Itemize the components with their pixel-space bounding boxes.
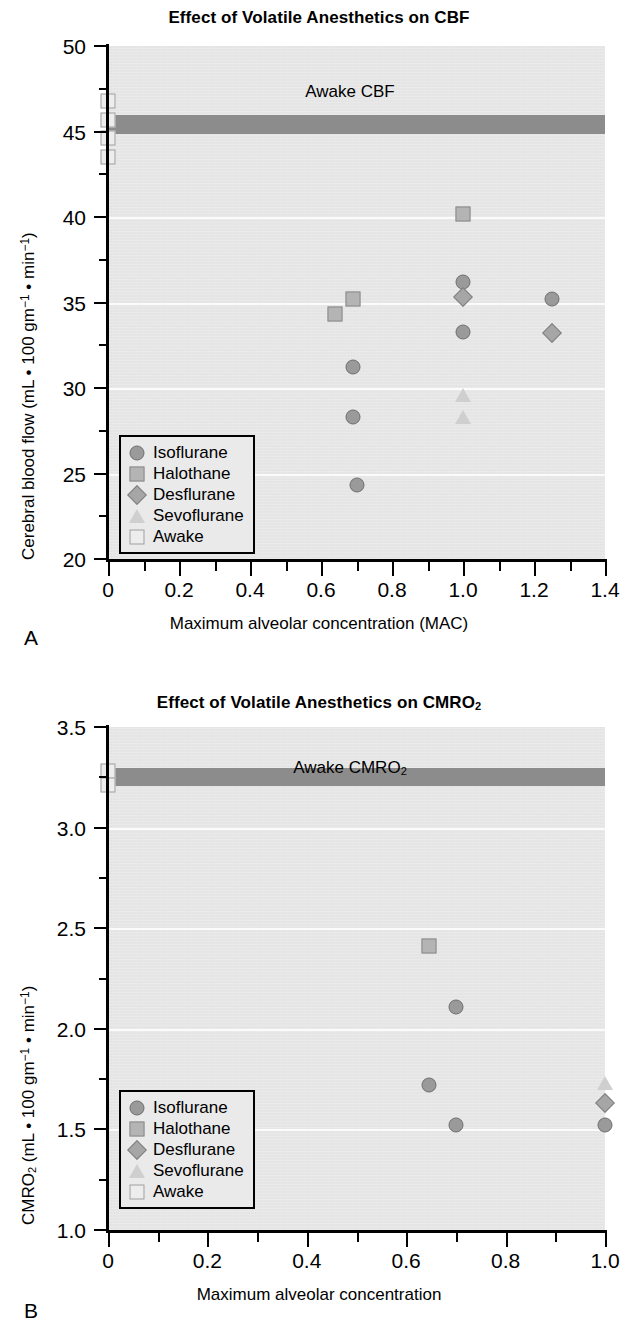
y-tick — [94, 827, 108, 829]
data-point-sevoflurane — [455, 410, 471, 424]
x-tick — [506, 1233, 508, 1247]
data-point-isoflurane — [598, 1118, 613, 1133]
x-tick-label: 0.8 — [471, 1250, 541, 1271]
x-tick — [250, 562, 252, 576]
legend-symbol-circle-icon — [128, 1099, 146, 1117]
y-tick — [94, 1229, 108, 1231]
legend-label: Halothane — [153, 465, 231, 482]
x-tick-label: 1.2 — [499, 579, 569, 600]
legend-item-desflurane: Desflurane — [128, 1139, 244, 1160]
marker-circle — [130, 445, 145, 460]
y-tick-label: 35 — [30, 292, 86, 313]
x-tick — [321, 562, 323, 576]
x-tick — [605, 562, 607, 576]
panel-b-title: Effect of Volatile Anesthetics on CMRO2 — [0, 693, 638, 713]
data-point-halothane — [328, 307, 343, 322]
y-tick-minor — [99, 259, 108, 261]
x-tick-label: 1.0 — [570, 1250, 638, 1271]
y-tick — [94, 1028, 108, 1030]
y-tick — [94, 216, 108, 218]
y-tick-label: 1.0 — [30, 1220, 86, 1241]
legend-label: Sevoflurane — [153, 1162, 244, 1179]
panel-b-letter: B — [24, 1299, 38, 1323]
y-tick-minor — [99, 1179, 108, 1181]
legend-symbol-triangle-icon — [128, 507, 146, 525]
x-tick-minor — [215, 562, 217, 571]
x-tick-minor — [158, 1233, 160, 1242]
y-tick — [94, 387, 108, 389]
legend-item-sevoflurane: Sevoflurane — [128, 1160, 244, 1181]
x-tick-minor — [286, 562, 288, 571]
x-tick-label: 0.6 — [371, 1250, 441, 1271]
legend-label: Desflurane — [153, 1141, 235, 1158]
marker-triangle — [129, 509, 145, 523]
x-tick — [307, 1233, 309, 1247]
legend-symbol-triangle-icon — [128, 1162, 146, 1180]
x-tick-label: 0.8 — [357, 579, 427, 600]
x-tick-minor — [555, 1233, 557, 1242]
x-tick-label: 0 — [73, 1250, 143, 1271]
y-tick-minor — [99, 344, 108, 346]
y-tick-minor — [99, 430, 108, 432]
marker-square — [130, 466, 145, 481]
x-tick-minor — [257, 1233, 259, 1242]
legend-symbol-diamond-icon — [128, 486, 146, 504]
y-tick-minor — [99, 1078, 108, 1080]
data-point-halothane — [421, 939, 436, 954]
marker-awake — [130, 529, 145, 544]
x-tick-label: 0.4 — [272, 1250, 342, 1271]
y-tick-minor — [99, 173, 108, 175]
panel-b-legend: IsofluraneHalothaneDesfluraneSevoflurane… — [119, 1090, 255, 1209]
gridline — [108, 217, 605, 219]
data-point-sevoflurane — [597, 1076, 613, 1090]
panel-a-awake-reference-band — [108, 115, 605, 134]
legend-symbol-awake-icon — [128, 1183, 146, 1201]
panel-a-title: Effect of Volatile Anesthetics on CBF — [0, 8, 638, 28]
legend-symbol-circle-icon — [128, 444, 146, 462]
y-tick-label: 2.0 — [30, 1018, 86, 1039]
legend-item-isoflurane: Isoflurane — [128, 442, 244, 463]
y-tick — [94, 131, 108, 133]
x-tick-label: 0.4 — [215, 579, 285, 600]
x-tick-label: 0.2 — [172, 1250, 242, 1271]
x-tick-minor — [499, 562, 501, 571]
y-tick — [94, 302, 108, 304]
y-tick-label: 3.0 — [30, 817, 86, 838]
y-tick-label: 20 — [30, 549, 86, 570]
panel-b: Effect of Volatile Anesthetics on CMRO2 … — [0, 665, 638, 1331]
legend-label: Isoflurane — [153, 444, 228, 461]
legend-symbol-awake-icon — [128, 528, 146, 546]
data-point-isoflurane — [448, 1118, 463, 1133]
y-tick-label: 30 — [30, 378, 86, 399]
x-tick-label: 0.6 — [286, 579, 356, 600]
legend-label: Isoflurane — [153, 1099, 228, 1116]
y-tick — [94, 558, 108, 560]
x-tick — [605, 1233, 607, 1247]
data-point-isoflurane — [544, 292, 559, 307]
data-point-desflurane — [542, 323, 562, 343]
x-tick-minor — [357, 562, 359, 571]
marker-diamond — [127, 485, 147, 505]
y-tick-minor — [99, 978, 108, 980]
data-point-isoflurane — [345, 360, 360, 375]
x-tick-minor — [428, 562, 430, 571]
panel-b-x-axis-title: Maximum alveolar concentration — [0, 1285, 638, 1305]
x-tick-label: 1.0 — [428, 579, 498, 600]
data-point-isoflurane — [456, 324, 471, 339]
panel-a-band-label: Awake CBF — [305, 82, 394, 102]
y-tick — [94, 927, 108, 929]
panel-a-x-axis-title: Maximum alveolar concentration (MAC) — [0, 614, 638, 634]
gridline — [108, 828, 605, 830]
data-point-isoflurane — [345, 410, 360, 425]
data-point-sevoflurane — [455, 388, 471, 402]
legend-label: Awake — [153, 528, 204, 545]
gridline — [108, 928, 605, 930]
marker-triangle — [129, 1164, 145, 1178]
legend-item-halothane: Halothane — [128, 1118, 244, 1139]
y-tick-label: 1.5 — [30, 1119, 86, 1140]
y-tick — [94, 1128, 108, 1130]
marker-circle — [130, 1100, 145, 1115]
y-tick-label: 25 — [30, 463, 86, 484]
x-tick-minor — [357, 1233, 359, 1242]
legend-label: Halothane — [153, 1120, 231, 1137]
